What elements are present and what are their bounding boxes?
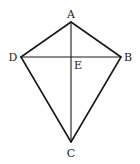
label-c: C (67, 147, 75, 160)
edge-cd (21, 57, 71, 142)
label-a: A (66, 8, 76, 21)
label-e: E (74, 59, 82, 72)
kite-diagram: A B C D E (0, 0, 140, 164)
edge-da (21, 22, 71, 57)
edge-ab (71, 22, 121, 57)
label-d: D (9, 51, 18, 64)
label-b: B (124, 51, 132, 64)
